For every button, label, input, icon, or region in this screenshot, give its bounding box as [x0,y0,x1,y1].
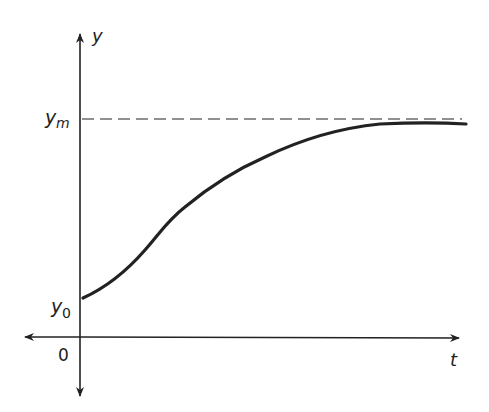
t-axis-right [80,337,459,338]
y0-subscript: 0 [62,305,71,321]
ym-subscript: m [56,115,70,131]
growth-curve [83,123,466,298]
t-axis-label: t [450,349,458,370]
origin-label: 0 [58,345,69,365]
growth-diagram: y t 0 y m y 0 [0,0,489,412]
y-axis-label: y [91,25,103,46]
